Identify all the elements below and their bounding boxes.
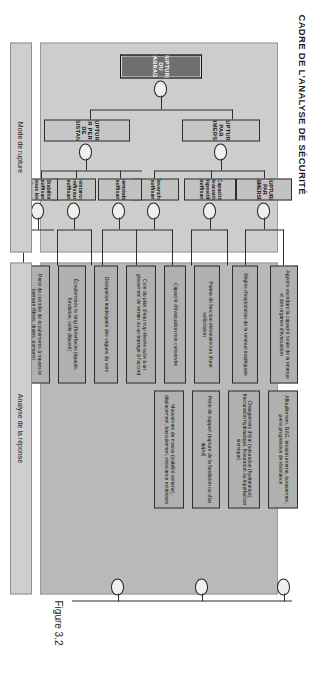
leaf-apports-excedant[interactable]: Apports excédant la capacité totale de l…: [270, 265, 298, 383]
connector: [118, 593, 119, 601]
or-gate-l3-3: [147, 202, 160, 219]
connector: [283, 229, 284, 265]
connector: [161, 95, 162, 109]
connector: [211, 170, 212, 178]
or-gate-l3-4: [112, 202, 125, 219]
connector: [102, 229, 103, 265]
leaf-perte-support[interactable]: Perte de support (rupture de la fondatio…: [192, 390, 220, 508]
connector: [245, 229, 246, 265]
node-top-event[interactable]: RUPTURE DU BARRAGE: [120, 54, 202, 78]
or-gate-spine-3: [111, 578, 124, 595]
connector: [202, 593, 203, 601]
connector: [246, 229, 284, 230]
leaf-ecoulements-interfaces[interactable]: Écoulements le long d'interfaces (épaule…: [58, 265, 86, 383]
connector: [154, 217, 155, 229]
leaf-cote-plan-eau[interactable]: Cote du plan d'eau trop élevée suite à u…: [126, 265, 156, 383]
connector: [227, 229, 228, 265]
or-gate-l3-2: [203, 202, 216, 219]
connector: [90, 109, 91, 119]
node-level3-submersion[interactable]: RUPTURE PAR SUBMERSION: [236, 178, 292, 200]
connector: [119, 217, 120, 229]
leaf-dissipation-vagues[interactable]: Dissipation inadéquate des vagues du ven…: [94, 265, 118, 383]
connector: [91, 109, 233, 110]
band-label-mode-de-rupture: Mode de rupture: [10, 42, 32, 252]
connector: [154, 170, 155, 178]
connector: [232, 109, 233, 119]
connector: [191, 229, 192, 265]
or-gate-l3-1: [257, 202, 270, 219]
connector: [221, 158, 222, 170]
connector: [57, 229, 58, 265]
connector: [91, 229, 92, 265]
node-level3-capacite-evacuation[interactable]: Capacité d'évacuation dispositifs insuff…: [184, 178, 236, 200]
leaf-capacite-non-conservee[interactable]: Capacité d'évacuation non conservée: [164, 265, 186, 383]
node-level2-perte-resistance[interactable]: RUPTURE PAR PERTE DE RÉSISTANCE: [44, 119, 130, 141]
band-label-analyse-reponse: Analyse de la réponse: [10, 262, 32, 594]
node-level2-submersion[interactable]: RUPTURE PAR SUBMERSION: [182, 119, 260, 141]
figure-title: CADRE DE L'ANALYSE DE SÉCURITÉ: [297, 14, 308, 194]
figure-canvas: CADRE DE L'ANALYSE DE SÉCURITÉ RUPTURE D…: [0, 0, 320, 685]
connector: [192, 229, 228, 230]
connector: [210, 217, 211, 229]
connector: [264, 217, 265, 229]
connector: [74, 217, 75, 229]
or-gate-l3-5: [67, 202, 80, 219]
connector: [38, 217, 39, 229]
connector: [76, 170, 77, 178]
connector: [136, 229, 137, 265]
connector: [58, 229, 92, 230]
connector: [137, 229, 173, 230]
connector: [284, 593, 285, 601]
node-level3-resistance-usure[interactable]: Résistance à l'usure/fissuration insuffi…: [52, 178, 96, 200]
leaf-panne-fonction-elevatoire[interactable]: Panne de fonction élévatoire lors d'une …: [194, 265, 220, 383]
figure-caption: Figure 3.2: [53, 600, 64, 645]
leaf-mouvement-de-masse[interactable]: Mouvement de masse (stabilité externe), …: [154, 390, 184, 508]
spine-line: [72, 600, 292, 601]
leaf-regles-exploitation[interactable]: Règles d'exploitation de la retenue inad…: [232, 265, 258, 383]
connector: [42, 170, 142, 171]
or-gate-submersion: [214, 143, 227, 160]
connector: [86, 158, 87, 170]
connector: [155, 170, 265, 171]
connector: [264, 170, 265, 178]
or-gate-spine-1: [277, 578, 290, 595]
connector: [103, 229, 137, 230]
leaf-changement-etat[interactable]: Changement d'état (saturation (hydratati…: [228, 390, 260, 508]
connector: [41, 170, 42, 178]
connector: [172, 229, 173, 265]
or-gate-resistance: [79, 143, 92, 160]
or-gate-spine-2: [195, 578, 208, 595]
leaf-affouillement-rag[interactable]: Affouillement, RAG, érosion interne, écr…: [268, 390, 298, 508]
or-gate-l3-6: [31, 202, 44, 219]
node-level3-impermeabilite[interactable]: Imperméabilité insuffisante: [98, 178, 142, 200]
or-gate-top: [154, 80, 167, 97]
connector: [120, 170, 121, 178]
